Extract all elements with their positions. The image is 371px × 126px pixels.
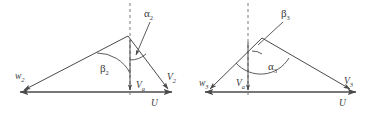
alpha3-arc [236, 58, 289, 74]
beta2-label: β2 [100, 62, 109, 76]
figure-root: α2 β2 w2 V2 Va U [0, 0, 371, 126]
v2-label: V2 [167, 72, 177, 84]
w2-label: w2 [15, 71, 25, 83]
va-label-right: Va [236, 78, 245, 90]
u-label-left: U [151, 98, 159, 108]
beta3-arc [252, 51, 262, 54]
va-label-left: Va [136, 80, 145, 92]
v3-label: V3 [344, 76, 354, 88]
w3-label: w3 [199, 78, 209, 90]
v3-vector [262, 38, 350, 89]
alpha2-leader-line [136, 22, 150, 55]
u-label-right: U [339, 98, 347, 108]
alpha3-label: α3 [268, 60, 277, 74]
alpha2-label: α2 [144, 7, 153, 21]
w2-vector [24, 36, 128, 90]
beta3-label: β3 [281, 7, 290, 21]
diagram-right-group: β3 α3 w3 V3 Va U [199, 3, 356, 108]
beta3-leader-line [258, 22, 283, 45]
diagram-left-group: α2 β2 w2 V2 Va U [15, 3, 177, 108]
v2-vector [128, 36, 168, 89]
velocity-triangles-figure: α2 β2 w2 V2 Va U [0, 0, 371, 126]
